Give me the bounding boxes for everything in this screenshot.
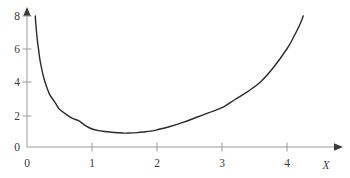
x-tick-label-2: 2 — [154, 157, 160, 169]
x-tick-label-4: 4 — [284, 157, 290, 169]
y-tick-label-4: 4 — [14, 76, 20, 88]
chart-figure: 0 2 4 6 8 0 1 2 3 4 X — [0, 0, 350, 178]
data-curve — [35, 16, 303, 133]
y-tick-label-6: 6 — [14, 43, 20, 55]
x-axis-arrow-icon — [334, 143, 343, 151]
x-tick-label-0: 0 — [24, 157, 30, 169]
x-axis-label: X — [321, 159, 330, 171]
y-tick-label-2: 2 — [14, 110, 20, 122]
x-tick-label-3: 3 — [219, 157, 225, 169]
y-tick-label-8: 8 — [14, 10, 20, 22]
plot-canvas: 0 2 4 6 8 0 1 2 3 4 X — [0, 0, 350, 178]
y-tick-label-0: 0 — [14, 141, 20, 153]
y-axis-arrow-icon — [23, 7, 31, 16]
x-tick-label-1: 1 — [89, 157, 95, 169]
